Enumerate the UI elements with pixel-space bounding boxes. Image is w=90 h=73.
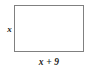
rectangle-shape (14, 5, 84, 52)
rectangle-width-label: x + 9 (14, 56, 84, 69)
rectangle-height-label: x (5, 23, 14, 35)
rectangle-diagram: x x + 9 (0, 0, 90, 73)
